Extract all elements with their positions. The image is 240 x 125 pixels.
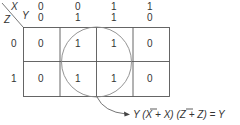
equation: Y (X + X) (Z + Z) = Y xyxy=(133,109,226,120)
col-header-x-3: 1 xyxy=(147,1,153,12)
cell-0-2: 1 xyxy=(111,38,117,49)
col-header-y-1: 1 xyxy=(75,12,81,23)
cell-1-1: 1 xyxy=(75,73,81,84)
cell-0-1: 1 xyxy=(75,38,81,49)
col-header-x-2: 1 xyxy=(111,1,117,12)
col-header-y-2: 1 xyxy=(111,12,117,23)
arrow-line xyxy=(97,97,126,114)
cell-1-0: 0 xyxy=(38,73,44,84)
arrow-head-icon xyxy=(124,112,130,117)
cell-1-2: 1 xyxy=(111,73,117,84)
row-header-0: 0 xyxy=(11,38,17,49)
col-header-y-3: 0 xyxy=(147,12,153,23)
corner-z-label: Z xyxy=(3,14,11,25)
corner-y-label: Y xyxy=(22,10,30,21)
cell-1-3: 0 xyxy=(147,73,153,84)
col-header-x-1: 0 xyxy=(75,1,81,12)
row-header-1: 1 xyxy=(11,73,17,84)
col-header-y-0: 0 xyxy=(38,12,44,23)
cell-0-3: 0 xyxy=(147,38,153,49)
col-header-x-0: 0 xyxy=(38,1,44,12)
corner-x-label: X xyxy=(10,1,18,12)
cell-0-0: 0 xyxy=(38,38,44,49)
karnaugh-map-diagram: X Y Z 0 0 1 1 0 1 1 0 0 1 0 1 1 0 0 1 1 … xyxy=(0,0,240,125)
